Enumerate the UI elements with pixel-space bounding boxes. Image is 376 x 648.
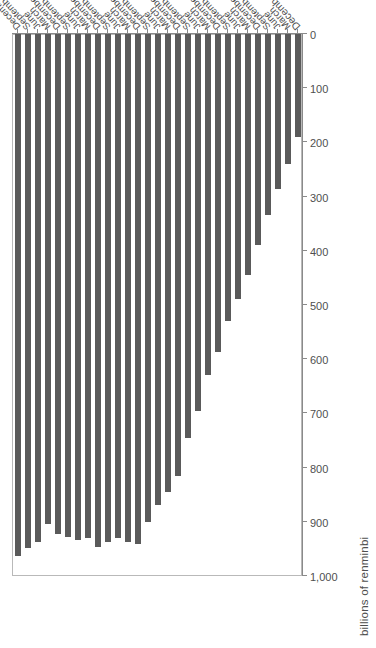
value-tick (302, 521, 307, 522)
bar[interactable] (165, 33, 171, 492)
value-tick (302, 575, 307, 576)
bar[interactable] (15, 33, 21, 556)
year-group-brackets: 2011201220132014201520162017 (12, 0, 302, 34)
bar-slot (115, 35, 121, 575)
value-tick-label: 1,000 (310, 571, 338, 583)
bar-slot (95, 35, 101, 575)
value-tick-label: 200 (310, 137, 328, 149)
bar[interactable] (275, 33, 281, 189)
bar-slot (105, 35, 111, 575)
value-tick (302, 358, 307, 359)
bar[interactable] (195, 33, 201, 411)
value-tick-label: 900 (310, 517, 328, 529)
value-tick (302, 87, 307, 88)
bar[interactable] (95, 33, 101, 547)
bar-slot (85, 35, 91, 575)
bar[interactable] (175, 33, 181, 476)
bar-slot (25, 35, 31, 575)
bar-slot (195, 35, 201, 575)
value-tick-label: 0 (310, 29, 316, 41)
bar-slot (225, 35, 231, 575)
value-tick (302, 141, 307, 142)
value-tick-label: 100 (310, 83, 328, 95)
bar[interactable] (35, 33, 41, 542)
bar[interactable] (25, 33, 31, 548)
bar-slot (205, 35, 211, 575)
value-tick-label: 600 (310, 354, 328, 366)
bar-slot (15, 35, 21, 575)
bar-slot (45, 35, 51, 575)
bar-slot (235, 35, 241, 575)
bar-slot (285, 35, 291, 575)
bar-slot (125, 35, 131, 575)
bar-slot (245, 35, 251, 575)
bar[interactable] (65, 33, 71, 537)
bar-slot (255, 35, 261, 575)
value-tick (302, 467, 307, 468)
bar[interactable] (45, 33, 51, 524)
bar-slot (55, 35, 61, 575)
value-tick (302, 412, 307, 413)
bar-slot (75, 35, 81, 575)
value-tick-label: 800 (310, 463, 328, 475)
bar-slot (275, 35, 281, 575)
bar[interactable] (145, 33, 151, 522)
value-tick-label: 300 (310, 192, 328, 204)
bar[interactable] (115, 33, 121, 538)
bar-slot (155, 35, 161, 575)
value-tick-label: 400 (310, 246, 328, 258)
bar[interactable] (125, 33, 131, 542)
bar[interactable] (135, 33, 141, 544)
bar[interactable] (285, 33, 291, 164)
plot-area (12, 34, 302, 576)
bar-chart: billions of renminbi 1,00090080070060050… (0, 0, 376, 648)
bar[interactable] (255, 33, 261, 245)
bar-slot (65, 35, 71, 575)
bar[interactable] (295, 33, 301, 137)
bar[interactable] (205, 33, 211, 375)
bar[interactable] (245, 33, 251, 275)
bar-slot (215, 35, 221, 575)
bar[interactable] (225, 33, 231, 321)
bar[interactable] (75, 33, 81, 540)
bar[interactable] (265, 33, 271, 215)
value-tick-label: 500 (310, 300, 328, 312)
bar[interactable] (185, 33, 191, 438)
bar[interactable] (105, 33, 111, 542)
bar-series (13, 35, 301, 575)
bar-slot (35, 35, 41, 575)
value-tick (302, 33, 307, 34)
bar[interactable] (155, 33, 161, 505)
bar-slot (185, 35, 191, 575)
bar[interactable] (235, 33, 241, 299)
rotated-figure-wrapper: billions of renminbi 1,00090080070060050… (0, 0, 376, 648)
bar-slot (265, 35, 271, 575)
value-tick (302, 196, 307, 197)
value-tick (302, 250, 307, 251)
value-axis (302, 34, 303, 576)
value-axis-title: billions of renminbi (358, 537, 370, 636)
bar[interactable] (85, 33, 91, 538)
bar[interactable] (55, 33, 61, 534)
bar-slot (145, 35, 151, 575)
bar-slot (175, 35, 181, 575)
bar[interactable] (215, 33, 221, 352)
bar-slot (135, 35, 141, 575)
bar-slot (165, 35, 171, 575)
value-tick-label: 700 (310, 408, 328, 420)
bar-slot (295, 35, 301, 575)
value-tick (302, 304, 307, 305)
